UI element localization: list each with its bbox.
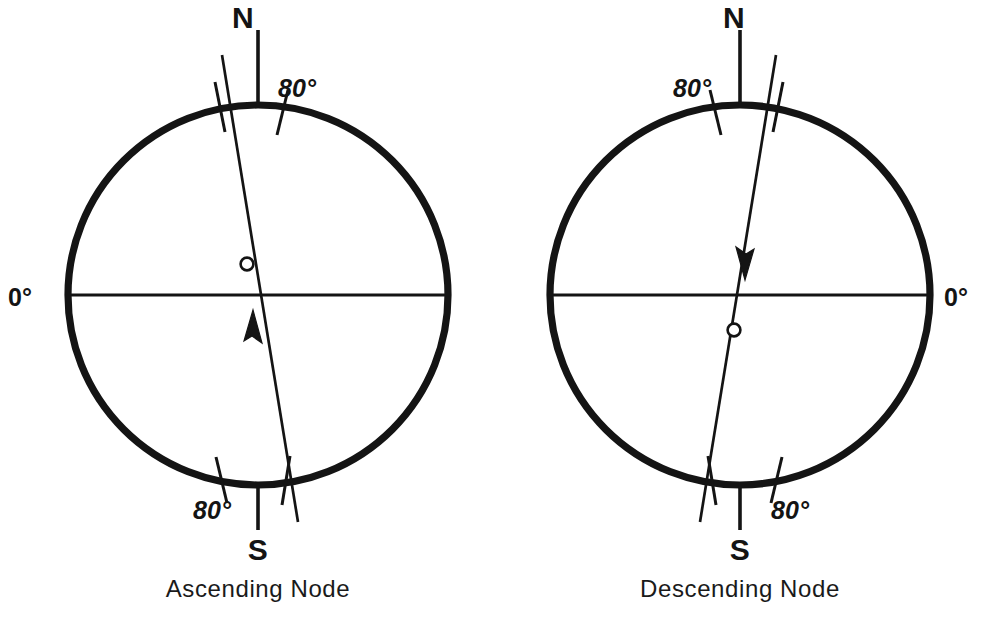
orbiting-body-symbol	[241, 258, 254, 271]
equator-zero-label: 0°	[8, 283, 32, 311]
panel-descending-node: N S 0° 80° 80° Descending Node	[550, 1, 968, 602]
panel-caption-ascending: Ascending Node	[166, 575, 351, 602]
inclination-label-top: 80°	[673, 74, 712, 102]
diagram-canvas: N S 0° 80° 80° Ascending Node	[0, 0, 986, 639]
inclination-label-top: 80°	[278, 74, 317, 102]
orbit-plane-line	[700, 55, 776, 522]
orbiting-body-symbol	[728, 324, 741, 337]
north-pole-label: N	[723, 1, 745, 34]
orbit-plane-line	[222, 55, 298, 522]
equator-zero-label: 0°	[944, 283, 968, 311]
south-pole-label: S	[248, 533, 269, 566]
panel-caption-descending: Descending Node	[640, 575, 840, 602]
inclination-label-bottom: 80°	[193, 496, 232, 524]
south-pole-label: S	[730, 533, 751, 566]
tick-top-left	[710, 90, 721, 135]
north-pole-label: N	[232, 1, 254, 34]
inclination-label-bottom: 80°	[771, 496, 810, 524]
orbital-node-figure: N S 0° 80° 80° Ascending Node	[0, 0, 986, 639]
panel-ascending-node: N S 0° 80° 80° Ascending Node	[8, 1, 448, 602]
ascending-direction-arrow	[244, 310, 262, 343]
